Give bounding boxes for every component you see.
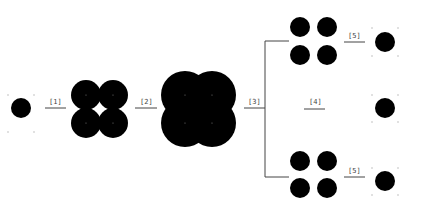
diagram-canvas: [1] [2] [3] <box>0 0 428 215</box>
step-1-arrow: [1] <box>45 98 66 108</box>
node-branch-top-group <box>290 17 337 65</box>
step-3-label: [3] <box>248 98 261 106</box>
node-merged-large <box>161 71 236 147</box>
step-5-top-arrow: [5] <box>344 32 365 42</box>
node-single-start <box>7 94 35 133</box>
step-5-bottom-label: [5] <box>348 167 361 175</box>
step-5-top-label: [5] <box>348 32 361 40</box>
diagram-svg: [1] [2] [3] <box>0 0 428 215</box>
step-4-arrow: [4] <box>304 98 325 109</box>
step-5-bottom-arrow: [5] <box>344 167 365 177</box>
node-merged-small <box>71 80 128 138</box>
step-3-branch: [3] <box>244 41 289 177</box>
step-2-arrow: [2] <box>135 98 157 108</box>
step-2-label: [2] <box>140 98 153 106</box>
node-result-top <box>371 27 399 57</box>
node-result-middle <box>371 94 399 123</box>
step-1-label: [1] <box>49 98 62 106</box>
step-4-label: [4] <box>309 98 322 106</box>
node-result-bottom <box>371 167 399 196</box>
node-branch-bottom-group <box>290 151 337 198</box>
